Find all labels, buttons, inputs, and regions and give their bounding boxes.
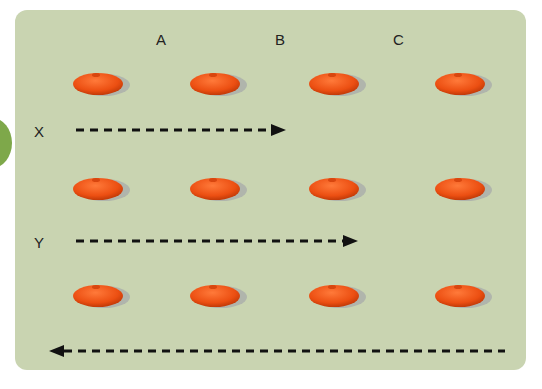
- cone-marker: [190, 285, 247, 308]
- column-label-c: C: [393, 31, 404, 48]
- column-label-b: B: [275, 31, 285, 48]
- cone-marker: [309, 73, 366, 96]
- cone-marker: [435, 178, 492, 201]
- cone-marker: [435, 285, 492, 308]
- arrow-return-head: [49, 345, 64, 357]
- cone-marker: [73, 73, 130, 96]
- cone-marker: [190, 178, 247, 201]
- row-label-x: X: [34, 123, 44, 140]
- arrow-x-head: [271, 124, 286, 136]
- cone-marker: [309, 178, 366, 201]
- cone-marker: [309, 285, 366, 308]
- column-label-a: A: [156, 31, 166, 48]
- cone-marker: [73, 285, 130, 308]
- row-label-y: Y: [34, 234, 44, 251]
- cone-marker: [73, 178, 130, 201]
- arrow-y-head: [343, 235, 358, 247]
- cone-marker: [435, 73, 492, 96]
- drill-diagram: A B C X Y: [0, 0, 542, 389]
- cone-marker: [190, 73, 247, 96]
